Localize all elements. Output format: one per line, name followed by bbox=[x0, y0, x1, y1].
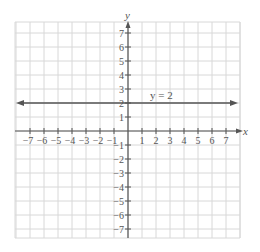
x-tick-label: −4 bbox=[65, 135, 76, 146]
y-tick-label: −2 bbox=[113, 154, 124, 165]
y-tick-label: −6 bbox=[113, 210, 124, 221]
x-tick-label: 4 bbox=[182, 135, 187, 146]
y-tick-label: −7 bbox=[113, 224, 124, 235]
x-tick-label: 2 bbox=[154, 135, 159, 146]
x-tick-label: 5 bbox=[196, 135, 201, 146]
y-tick-label: 7 bbox=[119, 28, 124, 39]
y-tick-label: 3 bbox=[119, 84, 124, 95]
coordinate-plane: −7−6−5−4−3−2−112345677654321−1−2−3−4−5−6… bbox=[0, 0, 260, 252]
y-axis-label: y bbox=[124, 9, 130, 21]
x-tick-label: −2 bbox=[93, 135, 104, 146]
x-tick-label: 6 bbox=[210, 135, 215, 146]
horizontal-line-y-2 bbox=[16, 100, 238, 106]
x-tick-label: −7 bbox=[23, 135, 34, 146]
x-tick-label: −3 bbox=[79, 135, 90, 146]
y-tick-label: −4 bbox=[113, 182, 124, 193]
x-tick-label: 3 bbox=[168, 135, 173, 146]
y-tick-label: −5 bbox=[113, 196, 124, 207]
x-tick-label: 1 bbox=[140, 135, 145, 146]
x-tick-label: −5 bbox=[51, 135, 62, 146]
y-tick-label: 4 bbox=[119, 70, 124, 81]
y-tick-label: 5 bbox=[119, 56, 124, 67]
line-label: y = 2 bbox=[150, 89, 173, 101]
x-tick-label: 7 bbox=[224, 135, 229, 146]
y-tick-label: 1 bbox=[119, 112, 124, 123]
x-axis-label: x bbox=[242, 125, 248, 137]
y-tick-label: 6 bbox=[119, 42, 124, 53]
y-tick-label: −1 bbox=[113, 140, 124, 151]
axes bbox=[15, 21, 243, 238]
x-tick-label: −6 bbox=[37, 135, 48, 146]
y-tick-label: −3 bbox=[113, 168, 124, 179]
